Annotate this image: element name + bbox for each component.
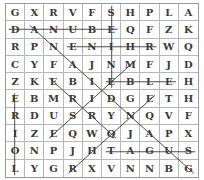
grid-cell[interactable]: R bbox=[64, 90, 83, 107]
grid-cell[interactable]: I bbox=[83, 73, 102, 90]
grid-cell[interactable]: X bbox=[179, 125, 198, 142]
grid-cell[interactable]: B bbox=[160, 160, 179, 177]
grid-cell[interactable]: J bbox=[121, 125, 140, 142]
grid-cell[interactable]: D bbox=[25, 108, 44, 125]
grid-cell[interactable]: X bbox=[83, 160, 102, 177]
grid-cell[interactable]: E bbox=[44, 125, 63, 142]
grid-cell[interactable]: U bbox=[160, 142, 179, 159]
grid-cell[interactable]: F bbox=[140, 56, 159, 73]
grid-cell[interactable]: N bbox=[140, 160, 159, 177]
grid-cell[interactable]: F bbox=[44, 56, 63, 73]
grid-cell[interactable]: E bbox=[44, 73, 63, 90]
grid-cell[interactable]: Z bbox=[6, 73, 25, 90]
grid-cell[interactable]: U bbox=[64, 21, 83, 38]
grid-cell[interactable]: V bbox=[102, 160, 121, 177]
grid-cell[interactable]: P bbox=[25, 39, 44, 56]
grid-cell[interactable]: L bbox=[140, 73, 159, 90]
grid-cell[interactable]: I bbox=[83, 90, 102, 107]
grid-cell[interactable]: H bbox=[121, 39, 140, 56]
grid-cell[interactable]: Q bbox=[140, 108, 159, 125]
grid-cell[interactable]: R bbox=[6, 39, 25, 56]
grid-cell[interactable]: R bbox=[6, 108, 25, 125]
grid-cell[interactable]: J bbox=[64, 142, 83, 159]
grid-cell[interactable]: S bbox=[64, 108, 83, 125]
grid-cell[interactable]: B bbox=[25, 90, 44, 107]
grid-cell[interactable]: G bbox=[121, 90, 140, 107]
grid-cell[interactable]: N bbox=[44, 39, 63, 56]
grid-cell[interactable]: H bbox=[179, 73, 198, 90]
grid-cell[interactable]: V bbox=[160, 108, 179, 125]
grid-cell[interactable]: Y bbox=[102, 108, 121, 125]
grid-cell[interactable]: E bbox=[102, 21, 121, 38]
grid-cell[interactable]: E bbox=[64, 39, 83, 56]
grid-cell[interactable]: P bbox=[44, 142, 63, 159]
grid-cell[interactable]: Z bbox=[160, 21, 179, 38]
grid-cell[interactable]: U bbox=[44, 108, 63, 125]
grid-cell[interactable]: H bbox=[83, 142, 102, 159]
grid-cell[interactable]: A bbox=[64, 56, 83, 73]
grid-cell[interactable]: N bbox=[121, 160, 140, 177]
grid-cell[interactable]: N bbox=[121, 108, 140, 125]
grid-cell[interactable]: D bbox=[102, 90, 121, 107]
grid-cell[interactable]: P bbox=[140, 4, 159, 21]
grid-cell[interactable]: S bbox=[179, 142, 198, 159]
grid-cell[interactable]: O bbox=[6, 142, 25, 159]
grid-cell[interactable]: Y bbox=[25, 160, 44, 177]
grid-cell[interactable]: B bbox=[83, 21, 102, 38]
grid-cell[interactable]: W bbox=[83, 125, 102, 142]
grid-cell[interactable]: N bbox=[25, 142, 44, 159]
grid-cell[interactable]: E bbox=[6, 90, 25, 107]
grid-cell[interactable]: C bbox=[6, 56, 25, 73]
grid-cell[interactable]: Q bbox=[102, 125, 121, 142]
grid-cell[interactable]: R bbox=[44, 4, 63, 21]
grid-cell[interactable]: A bbox=[121, 142, 140, 159]
grid-cell[interactable]: V bbox=[64, 4, 83, 21]
grid-cell[interactable]: H bbox=[121, 4, 140, 21]
grid-cell[interactable]: A bbox=[179, 4, 198, 21]
grid-cell[interactable]: N bbox=[83, 39, 102, 56]
grid-cell[interactable]: K bbox=[179, 21, 198, 38]
grid-cell[interactable]: G bbox=[44, 160, 63, 177]
grid-cell[interactable]: G bbox=[140, 142, 159, 159]
grid-cell[interactable]: Y bbox=[25, 56, 44, 73]
grid-cell[interactable]: T bbox=[102, 142, 121, 159]
grid-cell[interactable]: Q bbox=[179, 39, 198, 56]
grid-cell[interactable]: G bbox=[6, 4, 25, 21]
grid-cell[interactable]: B bbox=[121, 73, 140, 90]
grid-cell[interactable]: R bbox=[140, 39, 159, 56]
grid-cell[interactable]: M bbox=[44, 90, 63, 107]
grid-cell[interactable]: R bbox=[83, 108, 102, 125]
grid-cell[interactable]: N bbox=[44, 21, 63, 38]
grid-cell[interactable]: F bbox=[179, 108, 198, 125]
grid-cell[interactable]: R bbox=[64, 160, 83, 177]
grid-cell[interactable]: T bbox=[160, 90, 179, 107]
grid-cell[interactable]: J bbox=[160, 56, 179, 73]
grid-cell[interactable]: P bbox=[160, 125, 179, 142]
grid-cell[interactable]: W bbox=[160, 39, 179, 56]
grid-cell[interactable]: G bbox=[179, 160, 198, 177]
grid-cell[interactable]: H bbox=[179, 90, 198, 107]
grid-cell[interactable]: N bbox=[102, 56, 121, 73]
grid-cell[interactable]: I bbox=[6, 125, 25, 142]
grid-cell[interactable]: J bbox=[83, 56, 102, 73]
grid-cell[interactable]: E bbox=[160, 73, 179, 90]
grid-cell[interactable]: L bbox=[160, 4, 179, 21]
grid-cell[interactable]: F bbox=[140, 21, 159, 38]
grid-cell[interactable]: F bbox=[83, 4, 102, 21]
grid-cell[interactable]: A bbox=[140, 125, 159, 142]
grid-cell[interactable]: K bbox=[25, 73, 44, 90]
grid-cell[interactable]: E bbox=[102, 73, 121, 90]
grid-cell[interactable]: Z bbox=[25, 125, 44, 142]
grid-cell[interactable]: E bbox=[140, 90, 159, 107]
grid-cell[interactable]: B bbox=[64, 73, 83, 90]
grid-cell[interactable]: Q bbox=[64, 125, 83, 142]
grid-cell[interactable]: M bbox=[121, 56, 140, 73]
grid-cell[interactable]: L bbox=[6, 160, 25, 177]
grid-cell[interactable]: A bbox=[25, 21, 44, 38]
grid-cell[interactable]: I bbox=[102, 39, 121, 56]
grid-cell[interactable]: X bbox=[25, 4, 44, 21]
grid-cell[interactable]: Q bbox=[121, 21, 140, 38]
grid-cell[interactable]: D bbox=[6, 21, 25, 38]
grid-cell[interactable]: S bbox=[102, 4, 121, 21]
grid-cell[interactable]: D bbox=[179, 56, 198, 73]
